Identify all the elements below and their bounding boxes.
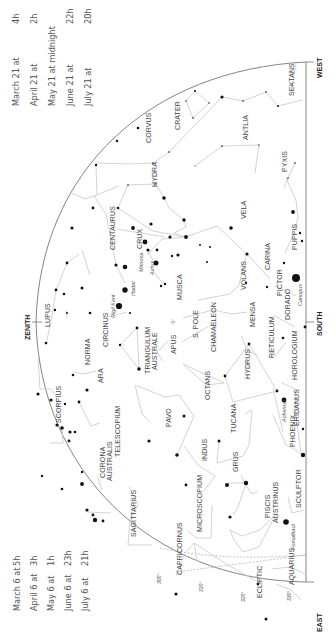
- label-pavo: PAVO: [165, 408, 172, 427]
- label-musca: MUSCA: [176, 274, 183, 300]
- label-indus: INDUS: [201, 438, 208, 461]
- label-puppis: PUPPIS: [291, 223, 298, 250]
- label-canopus: Canopus: [297, 284, 303, 306]
- ecliptic-degree-320: 320°: [240, 592, 246, 602]
- label-carina: CARINA: [264, 243, 271, 270]
- ecliptic-degree-330: 330°: [286, 591, 292, 601]
- time-row-time: 20h: [83, 8, 93, 24]
- label-octans: OCTANS: [204, 371, 211, 400]
- ecliptic-degree-310: 310°: [198, 582, 204, 592]
- time-row-time: 2h: [29, 14, 39, 24]
- label-dorado: DORADO: [284, 288, 291, 320]
- ecliptic-line-2: [176, 555, 306, 572]
- label-fomalhaut: Fomalhaut: [290, 524, 296, 550]
- time-row-time: 22h: [65, 8, 75, 24]
- times-top: March 21 at 4h April 21 at 2h May 21 at …: [11, 8, 93, 107]
- label-corona-2: AUSTRALIS: [106, 441, 113, 481]
- label-microscopium: MICROSCOPIUM: [196, 475, 203, 532]
- label-horologium: HOROLOGIUM: [291, 330, 298, 380]
- label-triangulum-1: TRIANGULUM: [144, 327, 151, 374]
- time-row-time: 4h: [11, 14, 21, 24]
- label-scorpius: SCORPIUS: [55, 385, 62, 423]
- label-crux: CRUX: [136, 229, 143, 249]
- label-circinus: CIRCINUS: [102, 312, 109, 347]
- west-label: WEST: [316, 57, 323, 78]
- ecliptic-degree-300: 300°: [156, 574, 162, 584]
- label-acrux: Acrux: [149, 261, 155, 276]
- label-centaurus: CENTAURUS: [109, 206, 116, 250]
- label-crater: CRATER: [174, 101, 181, 130]
- time-row-date: March 6 at: [12, 567, 22, 611]
- label-grus: GRUS: [232, 451, 239, 472]
- time-row-date: May 6 at: [46, 575, 56, 611]
- label-hydrus: HYDRUS: [244, 349, 251, 379]
- time-row-date: March 21 at: [11, 56, 21, 106]
- time-row-date: June 21 at: [65, 64, 75, 107]
- zenith-label: ZENITH: [24, 315, 31, 340]
- star-chart: ZENITH SOUTH WEST EAST S. POLE ECLIPTIC …: [0, 0, 336, 644]
- label-triangulum-2: AUSTRALE: [151, 332, 158, 370]
- label-volans: VOLANS: [240, 261, 247, 290]
- label-pictor: PICTOR: [276, 269, 283, 296]
- ecliptic-label: ECLIPTIC: [256, 566, 263, 598]
- label-tucana: TUCANA: [230, 403, 237, 433]
- label-lupus: LUPUS: [44, 303, 51, 327]
- label-corvus: CORVUS: [145, 112, 152, 143]
- label-antlia: ANTLIA: [242, 115, 249, 140]
- label-capricornus: CAPRICORNUS: [176, 522, 183, 575]
- constellation-lines: [38, 64, 305, 600]
- times-bottom: March 6 at 5h April 6 at 3h May 6 at 1h …: [12, 550, 90, 612]
- south-label: SOUTH: [316, 312, 323, 337]
- label-telescopium: TELESCOPIUM: [114, 406, 121, 457]
- label-mimosa: Mimosa: [138, 253, 144, 272]
- label-norma: NORMA: [84, 338, 91, 365]
- label-sculptor: SCULPTOR: [295, 469, 302, 508]
- label-phoenix: PHOENIX: [289, 415, 296, 447]
- time-row-date: May 21 at midnight: [47, 25, 57, 106]
- label-reticulum: RETICULUM: [268, 316, 275, 358]
- label-sagittarius: SAGITTARIUS: [130, 490, 137, 537]
- label-vela: VELA: [240, 200, 247, 219]
- time-row-time: 5h: [12, 556, 22, 566]
- label-achernar: Achernar: [281, 399, 287, 423]
- time-row-date: July 6 at: [80, 577, 90, 612]
- s-pole-label: S. POLE: [192, 310, 199, 338]
- time-row-time: 3h: [29, 556, 39, 566]
- label-mensa: MENSA: [249, 301, 256, 327]
- time-row-time: 23h: [63, 550, 73, 566]
- east-label: EAST: [316, 613, 323, 632]
- ecliptic-degrees: 300° 310° 320° 330°: [156, 574, 292, 602]
- time-row-date: April 21 at: [29, 63, 39, 106]
- label-apus: APUS: [170, 334, 177, 354]
- label-ara: ARA: [97, 368, 104, 383]
- time-row-time: 1h: [46, 556, 56, 566]
- time-row-date: April 6 at: [29, 573, 39, 611]
- time-row-date: July 21 at: [83, 67, 93, 107]
- label-piscis-2: AUSTRINUS: [272, 481, 279, 523]
- time-row-time: 21h: [80, 550, 90, 566]
- time-row-date: June 6 at: [63, 574, 73, 612]
- label-pyxis: PYXIS: [281, 151, 288, 172]
- label-rigil-kent: Rigil Kent: [110, 294, 116, 318]
- label-hydra: HYDRA: [151, 162, 158, 187]
- label-hadar: Hadar: [130, 280, 136, 296]
- label-chamaeleon: CHAMAELEON: [210, 302, 217, 352]
- label-piscis-1: PISCIS: [264, 494, 271, 518]
- label-sextans: SEXTANS: [288, 63, 295, 96]
- label-aquarius: AQUARIUS: [288, 547, 296, 585]
- label-corona-1: CORONA: [99, 446, 106, 478]
